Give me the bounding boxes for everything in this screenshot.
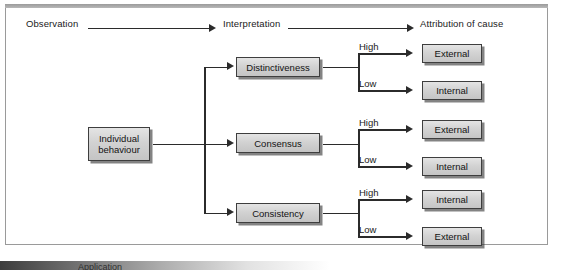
header-arrow-interpretation-to-attribution — [288, 24, 414, 33]
connector-to-distinctiveness — [204, 67, 227, 69]
arrowhead-to-consensus — [227, 139, 234, 147]
connector-consensus-high — [358, 129, 406, 131]
footer-gradient-bar — [0, 261, 330, 270]
outcome-distinctiveness-low[interactable]: Internal — [422, 81, 482, 100]
connector-source-stem — [153, 144, 205, 146]
connector-source-spine — [204, 67, 206, 214]
outcome-consistency-low[interactable]: External — [422, 227, 482, 246]
arrowhead-distinctiveness-low — [406, 86, 413, 94]
connector-consistency-high — [358, 199, 406, 201]
header-stage-attribution: Attribution of cause — [420, 18, 503, 29]
node-consistency[interactable]: Consistency — [236, 203, 320, 223]
frame-top-bar — [5, 4, 548, 8]
connector-consistency-stem — [323, 213, 359, 215]
arrowhead-to-distinctiveness — [227, 62, 234, 70]
node-individual-behaviour[interactable]: Individual behaviour — [88, 127, 150, 161]
node-individual-behaviour-line1: Individual — [99, 133, 139, 144]
branch-label-distinctiveness-high: High — [359, 41, 379, 52]
node-distinctiveness[interactable]: Distinctiveness — [236, 57, 320, 77]
outcome-consistency-high[interactable]: Internal — [422, 190, 482, 209]
branch-label-consistency-low: Low — [359, 224, 376, 235]
connector-to-consistency — [204, 213, 227, 215]
connector-distinctiveness-high — [358, 53, 406, 55]
branch-label-consistency-high: High — [359, 187, 379, 198]
arrowhead-consensus-low — [406, 162, 413, 170]
connector-distinctiveness-low — [358, 90, 406, 92]
branch-label-consensus-high: High — [359, 117, 379, 128]
arrowhead-consensus-high — [406, 125, 413, 133]
header-stage-interpretation: Interpretation — [223, 18, 280, 29]
outcome-consensus-high[interactable]: External — [422, 120, 482, 139]
arrowhead-distinctiveness-high — [406, 49, 413, 57]
connector-distinctiveness-stem — [323, 67, 359, 69]
arrowhead-to-consistency — [227, 208, 234, 216]
node-individual-behaviour-line2: behaviour — [98, 144, 140, 155]
connector-consistency-low — [358, 236, 406, 238]
diagram-root: Observation Interpretation Attribution o… — [0, 0, 565, 270]
outcome-distinctiveness-high[interactable]: External — [422, 44, 482, 63]
node-consensus[interactable]: Consensus — [236, 133, 320, 153]
connector-consensus-stem — [323, 144, 359, 146]
connector-to-consensus — [204, 144, 227, 146]
branch-label-distinctiveness-low: Low — [359, 78, 376, 89]
connector-consensus-low — [358, 166, 406, 168]
header-stage-observation: Observation — [26, 18, 78, 29]
arrowhead-consistency-low — [406, 232, 413, 240]
outcome-consensus-low[interactable]: Internal — [422, 157, 482, 176]
header-arrow-observation-to-interpretation — [88, 24, 216, 33]
footer-caption: Application — [78, 263, 122, 270]
branch-label-consensus-low: Low — [359, 154, 376, 165]
arrowhead-consistency-high — [406, 195, 413, 203]
